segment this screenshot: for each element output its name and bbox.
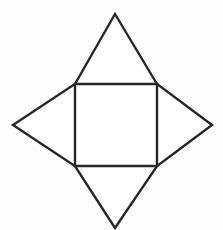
geometric-net-diagram [0,0,223,230]
central-square-fill [75,84,157,166]
left-triangle-fill [13,84,75,166]
bottom-triangle-fill [75,166,157,228]
face-fills [13,14,212,228]
figure-canvas [0,0,223,230]
right-triangle-fill [157,84,212,166]
top-triangle-fill [75,14,157,84]
